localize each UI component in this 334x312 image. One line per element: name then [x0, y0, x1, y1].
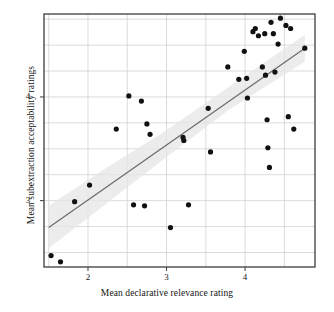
- x-tick-label: 3: [157, 272, 177, 282]
- x-tick-label: 2: [78, 272, 98, 282]
- x-tick-label: 4: [235, 272, 255, 282]
- confidence-band: [49, 35, 305, 249]
- x-axis-title: Mean declarative relevance rating: [0, 288, 334, 298]
- y-axis-title: Mean subextraction acceptability ratings: [26, 10, 36, 280]
- scatter-plot-figure: 234 34 Mean declarative relevance rating…: [0, 0, 334, 312]
- plot-canvas: [0, 0, 334, 312]
